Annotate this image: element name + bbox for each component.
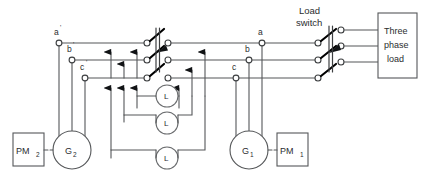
label-terminal-b-prime-mark: ' (73, 41, 74, 48)
three-phase-synchronizing-diagram: a ' b ' c ' a b c Load switch Three phas… (0, 0, 422, 180)
terminal-c-prime-dot[interactable] (82, 75, 88, 81)
sync-switch-blade-a[interactable] (150, 29, 164, 41)
label-load-line1: Three (384, 26, 408, 36)
label-lamp-1: L (164, 92, 169, 101)
load-switch-contact-a[interactable] (338, 27, 344, 33)
label-load-line2: phase (384, 40, 409, 50)
label-terminal-c-prime: c (80, 62, 85, 72)
wire-lamp2-left (124, 115, 156, 122)
label-prime-mover-2-sub: 2 (36, 151, 40, 158)
label-load-line3: load (387, 54, 404, 64)
label-lamp-3: L (164, 154, 169, 163)
label-terminal-a-prime: a (54, 27, 59, 37)
sync-switch-blade-c[interactable] (150, 64, 164, 76)
terminal-a-dot[interactable] (259, 40, 265, 46)
label-prime-mover-2: PM (16, 146, 30, 156)
sync-switch-contact-c[interactable] (165, 75, 171, 81)
wire-lamp3-left (111, 150, 156, 158)
label-terminal-b: b (245, 44, 250, 54)
terminal-b-dot[interactable] (246, 57, 252, 63)
label-lamp-2: L (164, 119, 169, 128)
sync-switch-contact-a[interactable] (165, 40, 171, 46)
sync-switch-contact-b[interactable] (165, 57, 171, 63)
label-load-switch-line1: Load (299, 5, 320, 16)
label-generator-1: G (242, 146, 249, 156)
label-generator-2-sub: 2 (73, 151, 77, 158)
load-switch-handle-arrow[interactable] (329, 44, 341, 53)
sync-switch-blade-b[interactable] (150, 46, 164, 58)
label-load-switch-line2: switch (296, 17, 322, 28)
load-switch-contact-b[interactable] (338, 59, 344, 65)
label-terminal-a: a (258, 27, 263, 37)
load-feed-wires (344, 30, 378, 62)
label-prime-mover-1: PM (280, 146, 294, 156)
label-generator-1-sub: 1 (250, 151, 254, 158)
label-generator-2: G (65, 146, 72, 156)
label-terminal-c-prime-mark: ' (86, 59, 87, 66)
circuit-diagram-canvas: a ' b ' c ' a b c Load switch Three phas… (0, 0, 422, 180)
wire-lamp1-left (137, 96, 156, 108)
load-switch[interactable] (315, 26, 344, 81)
terminal-c-dot[interactable] (233, 75, 239, 81)
terminal-b-prime-dot[interactable] (69, 57, 75, 63)
label-terminal-b-prime: b (67, 44, 72, 54)
wire-lamp2-right (178, 96, 192, 115)
label-terminal-a-prime-mark: ' (60, 24, 61, 31)
terminal-a-prime-dot[interactable] (56, 40, 62, 46)
synchronizing-switch[interactable] (144, 28, 171, 81)
label-terminal-c: c (232, 62, 237, 72)
label-prime-mover-1-sub: 1 (300, 151, 304, 158)
